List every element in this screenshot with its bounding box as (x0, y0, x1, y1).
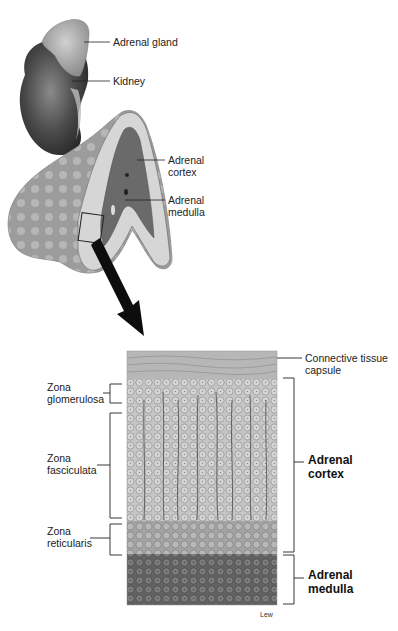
label-connective-tissue-capsule: Connective tissue capsule (305, 352, 388, 376)
label-zona-fasciculata: Zona fasciculata (47, 452, 97, 476)
label-adrenal-medulla-top: Adrenal medulla (168, 194, 205, 218)
label-zona-reticularis: Zona reticularis (47, 525, 92, 549)
label-adrenal-gland: Adrenal gland (113, 36, 178, 48)
artist-signature: Lew (260, 609, 273, 621)
label-adrenal-cortex-section: Adrenal cortex (308, 453, 353, 481)
label-kidney: Kidney (113, 75, 145, 87)
tissue-section (127, 351, 277, 605)
label-zona-glomerulosa: Zona glomerulosa (47, 381, 104, 405)
label-adrenal-medulla-section: Adrenal medulla (308, 568, 353, 596)
label-adrenal-cortex-top: Adrenal cortex (168, 154, 204, 178)
